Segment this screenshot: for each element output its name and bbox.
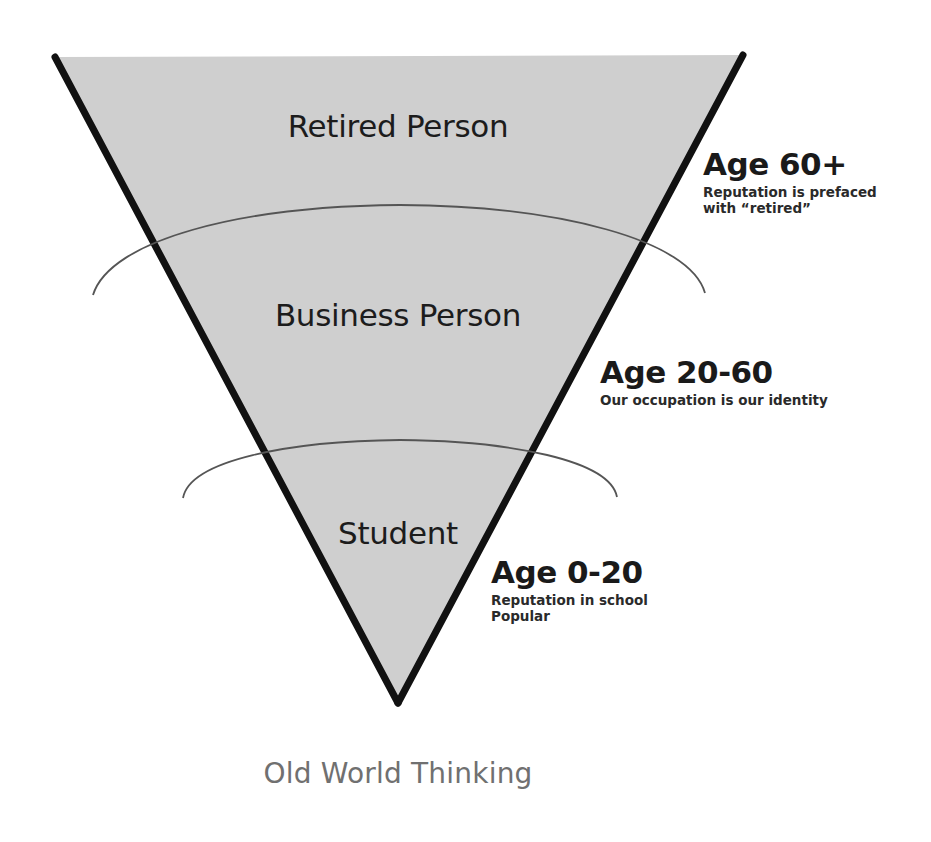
age-description: Reputation in school Popular	[491, 592, 648, 624]
tier-label-retired: Retired Person	[288, 108, 509, 144]
diagram-caption: Old World Thinking	[263, 757, 532, 790]
age-title: Age 20-60	[600, 355, 828, 389]
age-description: Reputation is prefaced with “retired”	[703, 184, 877, 216]
tier-label-student: Student	[338, 515, 458, 551]
age-description-line: Reputation is prefaced	[703, 184, 877, 200]
age-description-line: Reputation in school	[491, 592, 648, 608]
age-annotation-0-20: Age 0-20 Reputation in school Popular	[491, 555, 648, 624]
age-annotation-20-60: Age 20-60 Our occupation is our identity	[600, 355, 828, 408]
age-description: Our occupation is our identity	[600, 392, 828, 408]
age-annotation-60-plus: Age 60+ Reputation is prefaced with “ret…	[703, 147, 877, 216]
age-description-line: Our occupation is our identity	[600, 392, 828, 408]
age-title: Age 0-20	[491, 555, 648, 589]
diagram-canvas: Retired Person Business Person Student A…	[0, 0, 931, 842]
age-title: Age 60+	[703, 147, 877, 181]
tier-label-business: Business Person	[275, 297, 521, 333]
age-description-line: with “retired”	[703, 200, 877, 216]
age-description-line: Popular	[491, 608, 648, 624]
